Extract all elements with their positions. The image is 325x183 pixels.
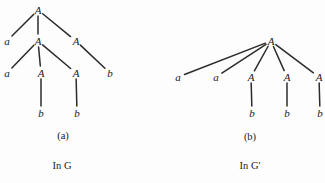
tree-node-a: a <box>4 36 10 47</box>
tree-node-a: A <box>316 72 323 83</box>
figure-canvas: AaAAaAAbbb(a)In GAaaAAAbbb(b)In G' <box>0 0 325 183</box>
tree-node-b: b <box>284 108 290 119</box>
tree-node-a: A <box>73 36 80 47</box>
parse-tree-edges <box>0 0 325 183</box>
tree-edge <box>12 45 34 68</box>
tree-node-a: A <box>248 72 255 83</box>
tree-node-b: b <box>38 108 44 119</box>
tree-edge <box>12 14 34 36</box>
tree-node-a: A <box>35 5 42 16</box>
tree-edge <box>39 47 41 66</box>
tree-edge <box>43 45 71 69</box>
tree-edge <box>251 83 252 106</box>
tree-node-b: b <box>107 68 113 79</box>
tree-edge <box>222 44 266 73</box>
tree-node-a: A <box>284 72 291 83</box>
tree-node-a: a <box>175 72 181 83</box>
tree-node-a: a <box>4 68 10 79</box>
tree-node-a: A <box>268 36 275 47</box>
tree-edge <box>80 45 105 68</box>
tree-node-a: A <box>38 68 45 79</box>
panel-grammar-label: In G <box>53 161 72 172</box>
tree-edge <box>43 14 71 37</box>
tree-node-b: b <box>317 108 323 119</box>
panel-grammar-label: In G' <box>240 161 261 172</box>
tree-edge <box>319 83 320 106</box>
tree-edge <box>276 45 314 73</box>
tree-edge <box>76 79 77 106</box>
tree-node-a: A <box>73 68 80 79</box>
tree-node-b: b <box>249 108 255 119</box>
tree-node-a: A <box>35 36 42 47</box>
panel-caption: (a) <box>57 131 69 142</box>
tree-node-b: b <box>74 108 80 119</box>
panel-caption: (b) <box>244 132 256 143</box>
tree-node-a: a <box>213 72 219 83</box>
